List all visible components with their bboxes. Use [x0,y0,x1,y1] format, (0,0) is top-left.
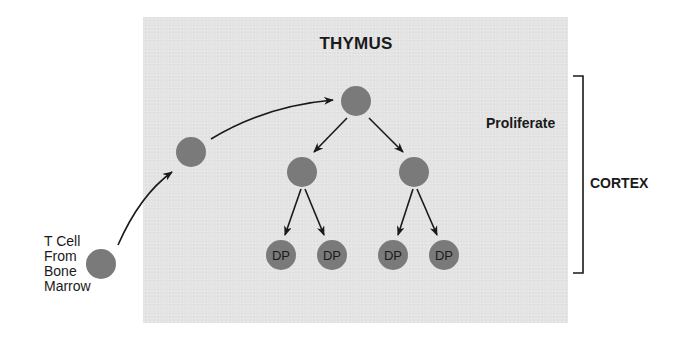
arrow-left-to-dp1 [285,189,301,235]
cell-dp-1: DP [266,240,296,270]
cell-daughter-right [399,157,429,187]
dp-label: DP [435,248,453,263]
arrow-bone-marrow-to-thymus [118,172,172,245]
dp-label: DP [384,248,402,263]
arrow-right-to-dp3 [398,189,413,235]
arrow-left-to-dp2 [305,189,324,235]
cell-dp-3: DP [378,240,408,270]
cell-daughter-left [287,157,317,187]
source-label-line: From [44,249,91,264]
arrow-right-to-dp4 [417,189,437,235]
arrow-entry-to-right [369,118,403,152]
cell-migrating [176,137,206,167]
cell-dp-2: DP [317,240,347,270]
dp-label: DP [272,248,290,263]
cell-thymus-entry [341,86,371,116]
arrow-migration-to-entry [211,100,333,139]
source-label: T Cell From Bone Marrow [44,234,91,294]
source-label-line: T Cell [44,234,91,249]
thymus-title: THYMUS [300,34,412,54]
cortex-bracket [573,76,583,273]
proliferate-label: Proliferate [486,115,555,131]
cortex-label: CORTEX [590,175,648,191]
source-label-line: Marrow [44,279,91,294]
arrow-entry-to-left [314,118,347,152]
dp-label: DP [323,248,341,263]
cell-dp-4: DP [429,240,459,270]
source-label-line: Bone [44,264,91,279]
